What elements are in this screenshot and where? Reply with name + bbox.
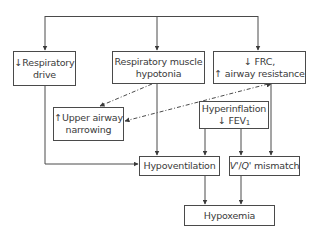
connector-lines [0, 0, 321, 237]
node-hypoventilation-label: Hypoventilation [143, 160, 215, 172]
node-vq-label: V'/Q' mismatch [230, 160, 300, 172]
node-upper-airway-narrowing: ↑Upper airway narrowing [53, 107, 124, 141]
node-respiratory-drive: ↓Respiratory drive [13, 51, 76, 86]
dashed-hypotonia-to-upper-airway [100, 84, 152, 106]
node-hyperinflation-line1: Hyperinflation [202, 103, 266, 115]
node-upper-airway-line1: ↑Upper airway [54, 112, 123, 124]
node-respiratory-drive-line1: ↓Respiratory [15, 57, 75, 69]
node-hyperinflation-line2: ↓ FEV1 [218, 115, 250, 128]
node-hyperinflation: Hyperinflation ↓ FEV1 [199, 101, 269, 129]
node-respiratory-drive-line2: drive [33, 69, 56, 81]
node-hypoventilation: Hypoventilation [139, 156, 220, 176]
node-hypoxemia: Hypoxemia [184, 205, 275, 226]
node-muscle-hypotonia: Respiratory muscle hypotonia [112, 51, 205, 84]
node-frc-airway-resistance: ↓ FRC, ↑ airway resistance [213, 51, 306, 84]
q-symbol: Q' [241, 160, 251, 171]
node-frc-line2: ↑ airway resistance [214, 68, 305, 80]
node-frc-line1: ↓ FRC, [244, 56, 275, 68]
fev-label: ↓ FEV [218, 115, 246, 126]
mismatch-text: mismatch [251, 160, 299, 171]
fev-subscript: 1 [246, 119, 250, 127]
node-vq-mismatch: V'/Q' mismatch [229, 156, 300, 176]
node-muscle-hypotonia-line2: hypotonia [136, 68, 182, 80]
node-upper-airway-line2: narrowing [66, 124, 112, 136]
node-hypoxemia-label: Hypoxemia [204, 210, 255, 222]
node-muscle-hypotonia-line1: Respiratory muscle [115, 56, 203, 68]
